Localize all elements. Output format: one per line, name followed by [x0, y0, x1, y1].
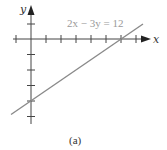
graph-figure: y x 2x − 3y = 12 (a) — [0, 0, 167, 150]
equation-label: 2x − 3y = 12 — [67, 17, 123, 29]
x-axis-label: x — [153, 33, 160, 46]
x-axis-arrow-icon — [141, 36, 151, 43]
y-axis-label: y — [19, 3, 27, 16]
figure-caption: (a) — [69, 134, 82, 147]
y-axis-arrow-icon — [28, 5, 35, 15]
